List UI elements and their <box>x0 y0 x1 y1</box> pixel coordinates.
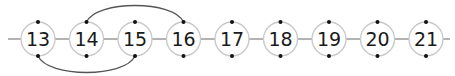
top-dot <box>133 20 137 24</box>
top-dot <box>279 20 283 24</box>
top-dot <box>85 20 89 24</box>
number-node: 17 <box>215 20 249 58</box>
jump-arc-bottom <box>38 56 135 73</box>
node-label: 14 <box>74 28 98 50</box>
top-dot <box>36 20 40 24</box>
number-node: 18 <box>264 20 298 58</box>
top-dot <box>424 20 428 24</box>
bottom-dot <box>182 54 186 58</box>
number-node: 14 <box>70 20 104 58</box>
top-dot <box>182 20 186 24</box>
node-label: 13 <box>26 28 50 50</box>
node-label: 18 <box>268 28 292 50</box>
bottom-dot <box>85 54 89 58</box>
jump-arc-top <box>87 6 184 23</box>
top-dot <box>327 20 331 24</box>
number-node: 15 <box>118 20 152 58</box>
bottom-dot <box>230 54 234 58</box>
bottom-dot <box>279 54 283 58</box>
bottom-dot <box>36 54 40 58</box>
node-label: 15 <box>123 28 147 50</box>
node-label: 20 <box>365 28 389 50</box>
bottom-dot <box>424 54 428 58</box>
top-dot <box>230 20 234 24</box>
node-label: 21 <box>414 28 438 50</box>
number-line-diagram: 131415161718192021 <box>0 0 455 76</box>
number-node: 16 <box>167 20 201 58</box>
bottom-dot <box>133 54 137 58</box>
number-node: 21 <box>409 20 443 58</box>
number-node: 13 <box>21 20 55 58</box>
bottom-dot <box>327 54 331 58</box>
node-label: 17 <box>220 28 244 50</box>
node-label: 16 <box>171 28 195 50</box>
bottom-dot <box>376 54 380 58</box>
number-node: 19 <box>312 20 346 58</box>
number-node: 20 <box>361 20 395 58</box>
node-label: 19 <box>317 28 341 50</box>
top-dot <box>376 20 380 24</box>
